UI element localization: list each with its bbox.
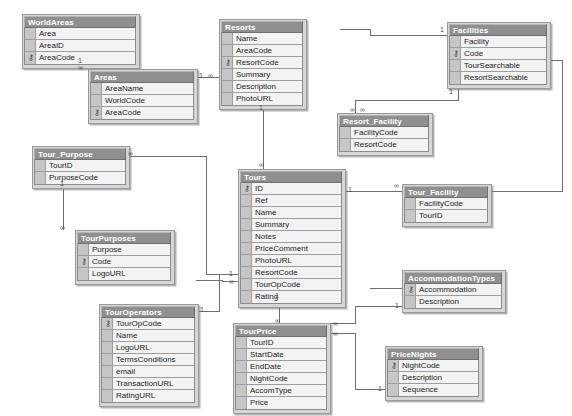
entity-table-tours[interactable]: Tours⚷IDRefNameSummaryNotesPriceCommentP…: [238, 169, 346, 308]
entity-table-title[interactable]: TourPurposes: [77, 232, 171, 244]
field-row[interactable]: ⚷AreaCode: [91, 107, 193, 119]
field-name: PriceComment: [252, 243, 341, 254]
entity-table-title[interactable]: AccommodationTypes: [404, 272, 502, 284]
field-row[interactable]: TourSearchable: [450, 60, 546, 72]
field-row[interactable]: Name: [222, 33, 302, 45]
entity-table-title[interactable]: TourPrice: [235, 325, 327, 337]
field-gutter: [241, 267, 252, 278]
field-row[interactable]: ⚷Code: [78, 256, 170, 268]
field-gutter: [78, 244, 89, 255]
field-name: AccomType: [247, 385, 326, 396]
field-row[interactable]: Notes: [241, 231, 341, 243]
field-row[interactable]: TourOpCode: [241, 279, 341, 291]
entity-table-accommodationtypes[interactable]: AccommodationTypes⚷AccommodationDescript…: [402, 270, 506, 313]
entity-table-title[interactable]: Areas: [90, 71, 194, 83]
entity-table-areas[interactable]: AreasAreaNameWorldCode⚷AreaCode: [88, 69, 198, 124]
field-row[interactable]: AreaID: [25, 40, 135, 52]
entity-table-title[interactable]: Resorts: [221, 21, 303, 33]
field-name: FacilityCode: [416, 198, 487, 209]
field-row[interactable]: email: [102, 366, 194, 378]
rel-pricenights-tourprice: [331, 333, 385, 389]
field-name: PurposeCode: [46, 172, 125, 184]
field-row[interactable]: Price: [236, 397, 326, 409]
field-gutter: [35, 160, 46, 171]
field-row[interactable]: Facility: [450, 36, 546, 48]
field-name: AreaCode: [36, 52, 135, 64]
field-row[interactable]: TourID: [35, 160, 125, 172]
field-row[interactable]: ⚷TourOpCode: [102, 318, 194, 330]
field-list: AreaNameWorldCode⚷AreaCode: [90, 83, 194, 120]
field-row[interactable]: ⚷ResortCode: [222, 57, 302, 69]
entity-table-facilities[interactable]: FacilitiesFacility⚷CodeTourSearchableRes…: [447, 22, 551, 89]
field-list: ⚷AccommodationDescription: [404, 284, 502, 309]
field-row[interactable]: TransactionURL: [102, 378, 194, 390]
field-row[interactable]: EndDate: [236, 361, 326, 373]
field-row[interactable]: TourID: [405, 210, 487, 222]
field-row[interactable]: WorldCode: [91, 95, 193, 107]
field-row[interactable]: ResortSearchable: [450, 72, 546, 84]
field-name: ResortCode: [233, 57, 302, 68]
field-row[interactable]: Area: [25, 28, 135, 40]
entity-table-resorts[interactable]: ResortsNameAreaCode⚷ResortCodeSummaryDes…: [219, 19, 307, 110]
field-row[interactable]: ⚷Accommodation: [405, 284, 501, 296]
field-row[interactable]: Name: [102, 330, 194, 342]
field-row[interactable]: ResortCode: [340, 139, 428, 151]
entity-table-tour_purpose[interactable]: Tour_PurposeTourIDPurposeCode: [32, 146, 130, 189]
field-row[interactable]: RatingURL: [102, 390, 194, 402]
entity-table-tour_facility[interactable]: Tour_FacilityFacilityCodeTourID: [402, 184, 492, 227]
field-row[interactable]: Ref: [241, 195, 341, 207]
field-row[interactable]: FacilityCode: [340, 127, 428, 139]
field-row[interactable]: Description: [388, 372, 478, 384]
field-gutter: [340, 127, 351, 138]
field-row[interactable]: ⚷NightCode: [388, 360, 478, 372]
field-row[interactable]: PriceComment: [241, 243, 341, 255]
entity-table-tourprice[interactable]: TourPriceTourIDStartDateEndDateNightCode…: [233, 323, 331, 414]
endpoint-many-tourprice-nights: ∞: [333, 330, 338, 337]
entity-table-title[interactable]: Tour_Facility: [404, 186, 488, 198]
entity-table-title[interactable]: Tours: [240, 171, 342, 183]
field-row[interactable]: Purpose: [78, 244, 170, 256]
field-row[interactable]: PhotoURL: [241, 255, 341, 267]
field-row[interactable]: TourID: [236, 337, 326, 349]
field-row[interactable]: AccomType: [236, 385, 326, 397]
field-gutter: [340, 139, 351, 151]
field-row[interactable]: Description: [222, 81, 302, 93]
field-row[interactable]: AreaCode: [222, 45, 302, 57]
field-row[interactable]: ⚷ID: [241, 183, 341, 195]
field-row[interactable]: Summary: [241, 219, 341, 231]
field-row[interactable]: LogoURL: [78, 268, 170, 280]
entity-table-title[interactable]: PriceNights: [387, 348, 479, 360]
entity-table-title[interactable]: TourOperators: [101, 306, 195, 318]
entity-table-touroperators[interactable]: TourOperators⚷TourOpCodeNameLogoURLTerms…: [99, 304, 199, 407]
field-name: Notes: [252, 231, 341, 242]
endpoint-many-tours: ∞: [259, 161, 264, 168]
field-row[interactable]: FacilityCode: [405, 198, 487, 210]
field-row[interactable]: TermsConditions: [102, 354, 194, 366]
field-gutter: [35, 172, 46, 184]
field-gutter: [236, 397, 247, 409]
field-row[interactable]: Name: [241, 207, 341, 219]
entity-table-title[interactable]: Tour_Purpose: [34, 148, 126, 160]
field-row[interactable]: Rating: [241, 291, 341, 303]
field-row[interactable]: Summary: [222, 69, 302, 81]
entity-table-tourpurposes[interactable]: TourPurposesPurpose⚷CodeLogoURL: [75, 230, 175, 285]
field-row[interactable]: LogoURL: [102, 342, 194, 354]
field-row[interactable]: NightCode: [236, 373, 326, 385]
field-row[interactable]: StartDate: [236, 349, 326, 361]
field-name: email: [113, 366, 194, 377]
field-row[interactable]: PurposeCode: [35, 172, 125, 184]
field-row[interactable]: Description: [405, 296, 501, 308]
field-list: TourIDPurposeCode: [34, 160, 126, 185]
field-row[interactable]: AreaName: [91, 83, 193, 95]
field-name: Summary: [233, 69, 302, 80]
entity-table-title[interactable]: WorldAreas: [24, 16, 136, 28]
field-row[interactable]: Sequence: [388, 384, 478, 396]
field-row[interactable]: ⚷Code: [450, 48, 546, 60]
field-gutter: [241, 219, 252, 230]
entity-table-resort_facility[interactable]: Resort_FacilityFacilityCodeResortCode: [337, 113, 433, 156]
entity-table-title[interactable]: Facilities: [449, 24, 547, 36]
endpoint-one-touroperators: 1: [200, 306, 204, 313]
field-row[interactable]: ResortCode: [241, 267, 341, 279]
entity-table-title[interactable]: Resort_Facility: [339, 115, 429, 127]
entity-table-pricenights[interactable]: PriceNights⚷NightCodeDescriptionSequence: [385, 346, 483, 401]
